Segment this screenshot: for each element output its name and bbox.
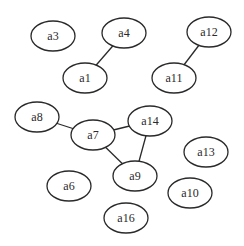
node-a13: a13 (184, 137, 228, 167)
node-label: a14 (141, 114, 158, 128)
node-a1: a1 (63, 63, 107, 93)
node-a10: a10 (168, 178, 212, 208)
edges-layer (37, 32, 209, 176)
node-label: a13 (197, 145, 214, 159)
graph-canvas: a3a4a1a12a11a8a7a14a9a6a13a10a16 (0, 0, 244, 246)
node-a3: a3 (31, 21, 75, 51)
node-a12: a12 (187, 17, 231, 47)
node-label: a10 (181, 186, 198, 200)
node-a14: a14 (128, 106, 172, 136)
node-a9: a9 (113, 161, 157, 191)
node-a6: a6 (47, 171, 91, 201)
node-label: a1 (79, 71, 90, 85)
node-a8: a8 (15, 102, 59, 132)
node-label: a7 (87, 128, 98, 142)
node-label: a11 (166, 71, 183, 85)
node-label: a4 (118, 26, 129, 40)
node-label: a3 (47, 29, 58, 43)
node-label: a12 (200, 25, 217, 39)
node-label: a16 (117, 211, 134, 225)
node-a11: a11 (152, 63, 196, 93)
node-a4: a4 (102, 18, 146, 48)
node-a16: a16 (104, 203, 148, 233)
node-label: a9 (129, 169, 140, 183)
node-a7: a7 (71, 120, 115, 150)
node-label: a6 (63, 179, 74, 193)
nodes-layer: a3a4a1a12a11a8a7a14a9a6a13a10a16 (15, 17, 231, 233)
node-label: a8 (31, 110, 42, 124)
